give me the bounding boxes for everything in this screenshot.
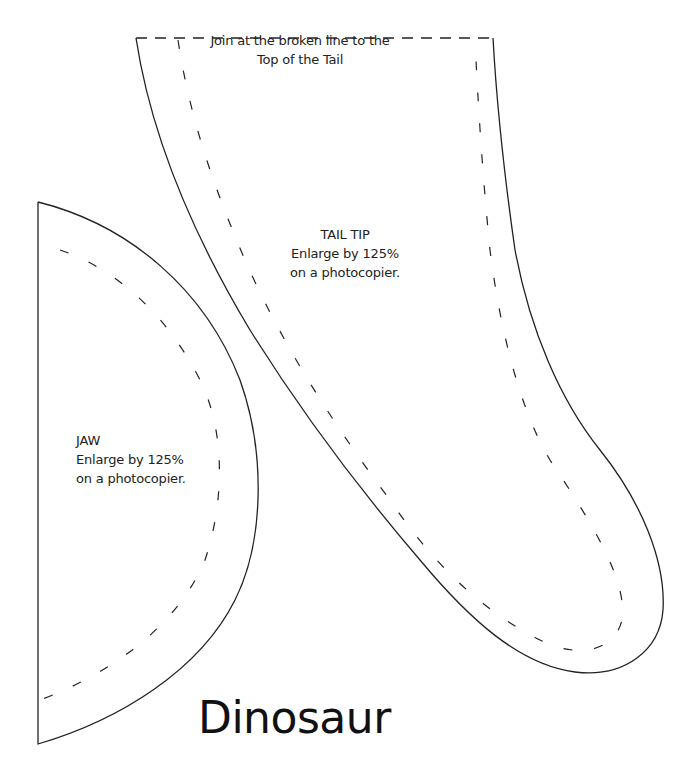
- jaw-instruction-1: Enlarge by 125%: [76, 450, 216, 469]
- tail-seam-line: [178, 40, 623, 650]
- jaw-name: JAW: [76, 431, 216, 450]
- tail-tip-instruction-2: on a photocopier.: [260, 263, 430, 282]
- join-note: Join at the broken line to the Top of th…: [200, 31, 400, 69]
- tail-tip-name: TAIL TIP: [260, 225, 430, 244]
- tail-tip-piece: [136, 38, 663, 673]
- tail-tip-instruction-1: Enlarge by 125%: [260, 244, 430, 263]
- page-title: Dinosaur: [198, 692, 391, 744]
- jaw-label: JAW Enlarge by 125% on a photocopier.: [76, 431, 216, 488]
- pattern-drawing: [0, 0, 687, 768]
- jaw-instruction-2: on a photocopier.: [76, 469, 216, 488]
- join-note-line-2: Top of the Tail: [200, 50, 400, 69]
- join-note-line-1: Join at the broken line to the: [200, 31, 400, 50]
- tail-tip-label: TAIL TIP Enlarge by 125% on a photocopie…: [260, 225, 430, 282]
- tail-outline: [136, 38, 663, 673]
